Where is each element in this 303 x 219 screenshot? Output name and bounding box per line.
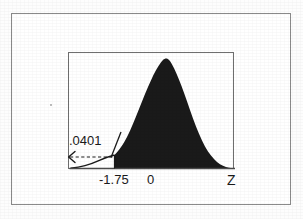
plot-area [68, 52, 234, 169]
normal-distribution-figure: .0401 -1.75 0 Z [0, 0, 303, 219]
x-axis-label-z: Z [227, 172, 236, 188]
shaded-area-right-of-minus-1.75 [115, 58, 236, 168]
area-probability-label: .0401 [69, 133, 102, 148]
tail-area-arrow [1, 101, 121, 125]
x-tick-label-zero: 0 [147, 172, 154, 187]
x-tick-label-minus-1.75: -1.75 [99, 172, 129, 187]
